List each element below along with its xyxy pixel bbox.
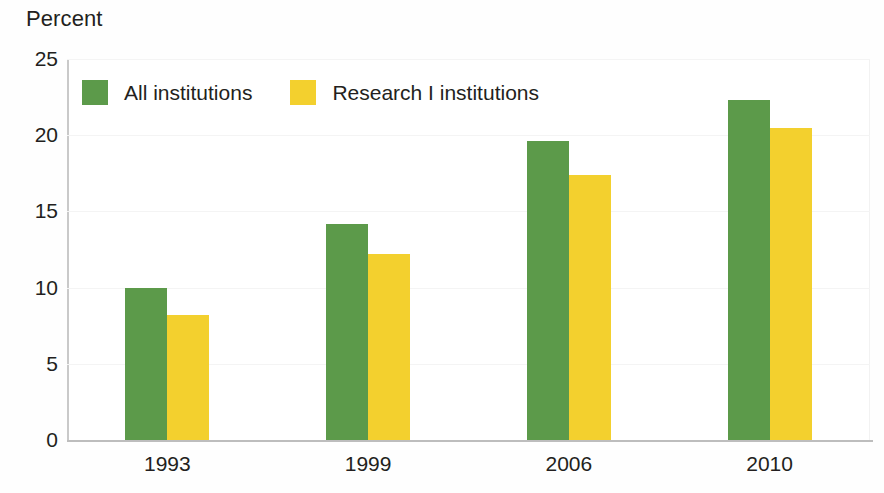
legend-swatch-yellow-icon bbox=[290, 80, 316, 105]
chart-figure: Percent 0510152025 1993199920062010 All … bbox=[0, 0, 884, 493]
bar bbox=[125, 288, 167, 440]
bar bbox=[368, 254, 410, 440]
x-tick-label: 1993 bbox=[144, 452, 191, 476]
bar bbox=[167, 315, 209, 440]
legend-item-all-institutions: All institutions bbox=[82, 80, 252, 105]
legend-label-research-i-institutions: Research I institutions bbox=[332, 81, 539, 105]
bar bbox=[527, 141, 569, 440]
x-tick-label: 2010 bbox=[746, 452, 793, 476]
bar bbox=[728, 100, 770, 440]
bar bbox=[770, 128, 812, 440]
bar-series-layer bbox=[0, 0, 884, 493]
legend-label-all-institutions: All institutions bbox=[124, 81, 252, 105]
x-tick-label: 2006 bbox=[546, 452, 593, 476]
bar bbox=[326, 224, 368, 440]
bar bbox=[569, 175, 611, 440]
x-tick-label: 1999 bbox=[345, 452, 392, 476]
legend-item-research-i-institutions: Research I institutions bbox=[290, 80, 539, 105]
legend-swatch-green-icon bbox=[82, 80, 108, 105]
chart-legend: All institutions Research I institutions bbox=[82, 80, 539, 105]
